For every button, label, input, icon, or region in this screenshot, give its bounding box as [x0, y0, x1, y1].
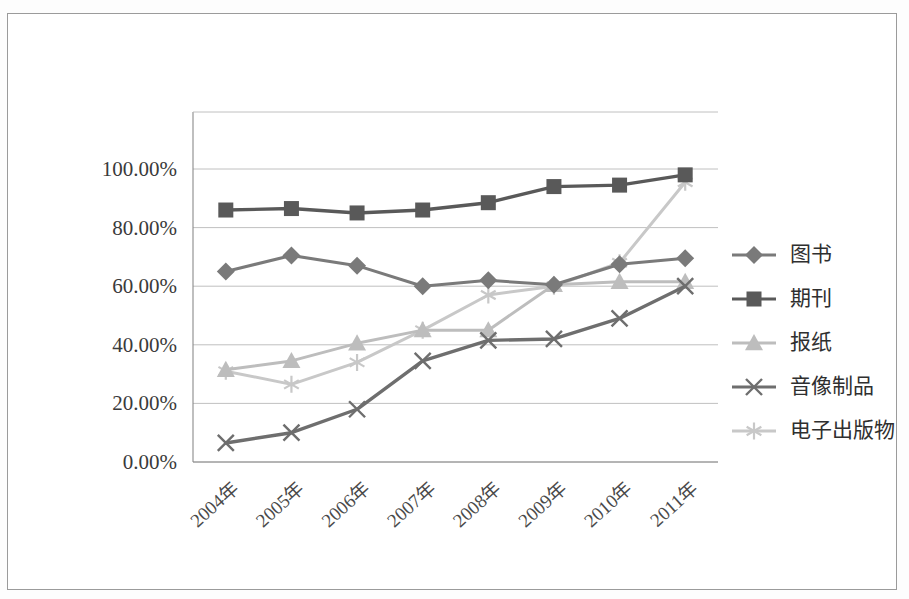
legend-item-1[interactable]: 期刊: [732, 286, 832, 310]
x-tick-label: 2008年: [449, 477, 505, 531]
series-2: [217, 273, 694, 377]
legend-label: 期刊: [790, 286, 832, 310]
legend-label: 报纸: [790, 330, 832, 354]
diamond-marker: [676, 249, 694, 267]
series-line: [226, 282, 685, 370]
x-tick-label: 2007年: [383, 477, 439, 531]
chart-page: 0.00%20.00%40.00%60.00%80.00%100.00% 200…: [0, 0, 909, 599]
diamond-marker: [414, 277, 432, 295]
x-tick-label: 2004年: [186, 477, 242, 531]
legend-label: 音像制品: [790, 374, 874, 398]
legend-label: 图书: [790, 242, 832, 266]
legend-item-3[interactable]: 音像制品: [732, 374, 874, 398]
legend-item-4[interactable]: 电子出版物: [732, 418, 895, 442]
y-tick-label: 60.00%: [112, 274, 177, 298]
x-tick-label: 2006年: [317, 477, 373, 531]
gridlines: [193, 169, 718, 462]
chart-legend: 图书期刊报纸音像制品电子出版物: [732, 242, 895, 442]
legend-label: 电子出版物: [790, 418, 895, 442]
diamond-marker: [348, 257, 366, 275]
diamond-marker: [745, 246, 763, 264]
line-chart: 0.00%20.00%40.00%60.00%80.00%100.00% 200…: [0, 0, 909, 599]
legend-item-0[interactable]: 图书: [732, 242, 832, 266]
x-tick-label: 2010年: [580, 477, 636, 531]
chart-svg: 0.00%20.00%40.00%60.00%80.00%100.00% 200…: [0, 0, 909, 599]
y-axis-tick-labels: 0.00%20.00%40.00%60.00%80.00%100.00%: [102, 157, 177, 474]
series-1: [218, 167, 692, 220]
legend-item-2[interactable]: 报纸: [732, 330, 832, 354]
square-marker: [218, 203, 233, 218]
x-tick-label: 2011年: [646, 477, 702, 530]
diamond-marker: [217, 263, 235, 281]
x-axis-tick-labels: 2004年2005年2006年2007年2008年2009年2010年2011年: [186, 477, 702, 531]
square-marker: [678, 167, 693, 182]
square-marker: [350, 205, 365, 220]
x-tick-label: 2005年: [252, 477, 308, 531]
plot-frame: [193, 112, 718, 462]
square-marker: [546, 179, 561, 194]
y-tick-label: 100.00%: [102, 157, 177, 181]
series-layer: [217, 167, 694, 451]
square-marker: [612, 178, 627, 193]
y-tick-label: 80.00%: [112, 216, 177, 240]
square-marker: [481, 195, 496, 210]
diamond-marker: [282, 246, 300, 264]
y-tick-label: 40.00%: [112, 333, 177, 357]
asterisk-marker: [350, 354, 365, 371]
square-marker: [284, 201, 299, 216]
square-marker: [747, 292, 762, 307]
y-tick-label: 0.00%: [123, 450, 177, 474]
square-marker: [415, 203, 430, 218]
x-tick-label: 2009年: [514, 477, 570, 531]
y-tick-label: 20.00%: [112, 391, 177, 415]
